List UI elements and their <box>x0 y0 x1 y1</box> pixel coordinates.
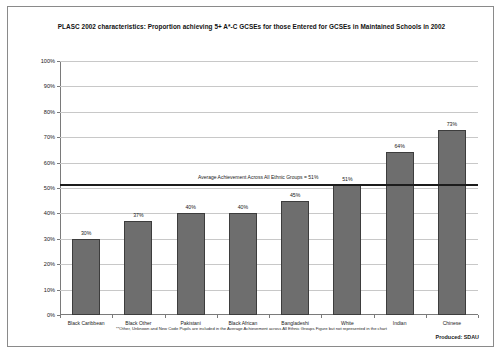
y-axis-tick-label: 60% <box>44 160 55 166</box>
bar-value-label: 51% <box>342 176 352 182</box>
bar-value-label: 64% <box>394 143 404 149</box>
gridline <box>60 188 478 189</box>
gridline <box>60 163 478 164</box>
x-axis-tick-mark <box>60 315 61 318</box>
gridline <box>60 239 478 240</box>
y-axis-tick-mark <box>57 239 60 240</box>
bar-value-label: 73% <box>447 121 457 127</box>
y-axis-tick-mark <box>57 86 60 87</box>
gridline <box>60 290 478 291</box>
y-axis-tick-mark <box>57 112 60 113</box>
gridline <box>60 213 478 214</box>
y-axis-tick-label: 70% <box>44 134 55 140</box>
bar-value-label: 40% <box>185 204 195 210</box>
gridline <box>60 86 478 87</box>
chart-title: PLASC 2002 characteristics: Proportion a… <box>8 23 495 30</box>
y-axis-tick-label: 50% <box>44 185 55 191</box>
bar-value-label: 30% <box>81 230 91 236</box>
x-axis-tick-mark <box>217 315 218 318</box>
y-axis-tick-label: 0% <box>47 312 55 318</box>
bar: 40% <box>229 213 257 315</box>
y-axis-tick-label: 80% <box>44 109 55 115</box>
bar-value-label: 40% <box>238 204 248 210</box>
x-axis-tick-mark <box>374 315 375 318</box>
chart-footnote: **Other, Unknown and New Code Pupils are… <box>8 326 495 331</box>
bar: 37% <box>124 221 152 315</box>
y-axis-tick-label: 20% <box>44 261 55 267</box>
y-axis-tick-mark <box>57 264 60 265</box>
gridline <box>60 61 478 62</box>
bar: 51% <box>333 185 361 315</box>
x-axis-tick-mark <box>478 315 479 318</box>
average-achievement-line <box>60 184 478 186</box>
y-axis-tick-mark <box>57 213 60 214</box>
x-axis-tick-mark <box>112 315 113 318</box>
x-axis-tick-mark <box>426 315 427 318</box>
produced-by-label: Produced: SDAU <box>436 334 479 340</box>
y-axis-tick-label: 10% <box>44 287 55 293</box>
gridline <box>60 137 478 138</box>
average-achievement-label: Average Achievement Across All Ethnic Gr… <box>198 174 318 180</box>
chart-container: PLASC 2002 characteristics: Proportion a… <box>7 6 494 347</box>
y-axis-tick-mark <box>57 290 60 291</box>
bar: 45% <box>281 201 309 315</box>
bar: 64% <box>386 152 414 315</box>
bar: 40% <box>177 213 205 315</box>
x-axis-tick-mark <box>321 315 322 318</box>
x-axis-tick-mark <box>269 315 270 318</box>
bar: 30% <box>72 239 100 315</box>
x-axis-tick-mark <box>165 315 166 318</box>
gridline <box>60 112 478 113</box>
y-axis-tick-mark <box>57 163 60 164</box>
bar: 73% <box>438 130 466 315</box>
y-axis-tick-label: 100% <box>41 58 55 64</box>
gridline <box>60 264 478 265</box>
y-axis-tick-mark <box>57 137 60 138</box>
bar-value-label: 45% <box>290 192 300 198</box>
bar-value-label: 37% <box>133 212 143 218</box>
y-axis-tick-mark <box>57 188 60 189</box>
y-axis-tick-label: 90% <box>44 83 55 89</box>
y-axis-tick-label: 40% <box>44 210 55 216</box>
y-axis-tick-label: 30% <box>44 236 55 242</box>
plot-area: 100%90%80%70%60%50%40%30%20%10%0% 30%37%… <box>60 61 478 315</box>
y-axis-tick-mark <box>57 61 60 62</box>
